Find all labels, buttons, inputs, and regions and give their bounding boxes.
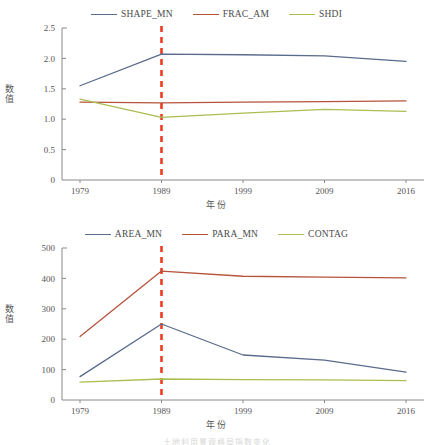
legend-item-contag: CONTAG [278, 229, 348, 239]
svg-text:2.5: 2.5 [44, 23, 56, 33]
x-tick-label-2009: 2009 [316, 186, 334, 196]
legend-label-shdi: SHDI [319, 9, 342, 19]
chart-top-svg: 00.51.01.52.02.5 [0, 20, 433, 188]
legend-label-shape-mn: SHAPE_MN [121, 9, 173, 19]
chart-bottom: AREA_MN PARA_MN CONTAG 0100200300400500 … [0, 222, 433, 440]
legend-swatch-area-mn [85, 234, 111, 235]
x-tick-label-2009: 2009 [316, 406, 334, 416]
svg-text:1.5: 1.5 [44, 84, 56, 94]
chart-bottom-svg: 0100200300400500 [0, 240, 433, 408]
legend-label-area-mn: AREA_MN [115, 229, 162, 239]
legend-swatch-contag [278, 234, 304, 235]
chart-top-plot-area: 00.51.01.52.02.5 [0, 20, 433, 188]
figure-caption: 土地利用景观格局指数变化 [0, 436, 433, 445]
legend-item-area-mn: AREA_MN [85, 229, 162, 239]
legend-item-shape-mn: SHAPE_MN [91, 9, 173, 19]
legend-swatch-shdi [289, 14, 315, 15]
series-line-para-mn [80, 271, 406, 336]
legend-swatch-shape-mn [91, 14, 117, 15]
x-tick-label-2016: 2016 [397, 186, 415, 196]
legend-label-contag: CONTAG [308, 229, 348, 239]
series-line-shape-mn [80, 54, 406, 86]
svg-text:500: 500 [42, 243, 56, 253]
x-tick-label-1979: 1979 [71, 406, 89, 416]
svg-text:200: 200 [42, 334, 56, 344]
x-tick-label-1999: 1999 [234, 406, 252, 416]
series-line-frac-am [80, 101, 406, 103]
chart-top: SHAPE_MN FRAC_AM SHDI 00.51.01.52.02.5 数… [0, 2, 433, 220]
x-tick-label-2016: 2016 [397, 406, 415, 416]
series-line-area-mn [80, 324, 406, 377]
x-tick-label-1989: 1989 [153, 406, 171, 416]
svg-text:100: 100 [42, 365, 56, 375]
chart-bottom-y-axis-title: 数值 [3, 304, 16, 324]
chart-top-x-axis-title: 年份 [0, 198, 433, 211]
svg-text:0.5: 0.5 [44, 145, 56, 155]
x-tick-label-1999: 1999 [234, 186, 252, 196]
svg-text:2.0: 2.0 [44, 54, 56, 64]
chart-bottom-x-tick-labels: 19791989199920092016 [0, 406, 433, 418]
svg-text:400: 400 [42, 274, 56, 284]
series-line-contag [80, 379, 406, 382]
svg-text:1.0: 1.0 [44, 114, 56, 124]
svg-text:300: 300 [42, 304, 56, 314]
chart-bottom-x-axis-title: 年份 [0, 418, 433, 431]
chart-top-y-axis-title: 数值 [3, 84, 16, 104]
legend-item-para-mn: PARA_MN [182, 229, 258, 239]
x-tick-label-1989: 1989 [153, 186, 171, 196]
legend-swatch-para-mn [182, 234, 208, 235]
legend-item-shdi: SHDI [289, 9, 342, 19]
svg-text:0: 0 [51, 175, 56, 185]
svg-text:0: 0 [51, 395, 56, 405]
legend-swatch-frac-am [193, 14, 219, 15]
legend-item-frac-am: FRAC_AM [193, 9, 269, 19]
chart-bottom-plot-area: 0100200300400500 [0, 240, 433, 408]
chart-top-x-tick-labels: 19791989199920092016 [0, 186, 433, 198]
x-tick-label-1979: 1979 [71, 186, 89, 196]
legend-label-para-mn: PARA_MN [212, 229, 258, 239]
figure-container: SHAPE_MN FRAC_AM SHDI 00.51.01.52.02.5 数… [0, 0, 433, 445]
legend-label-frac-am: FRAC_AM [223, 9, 269, 19]
